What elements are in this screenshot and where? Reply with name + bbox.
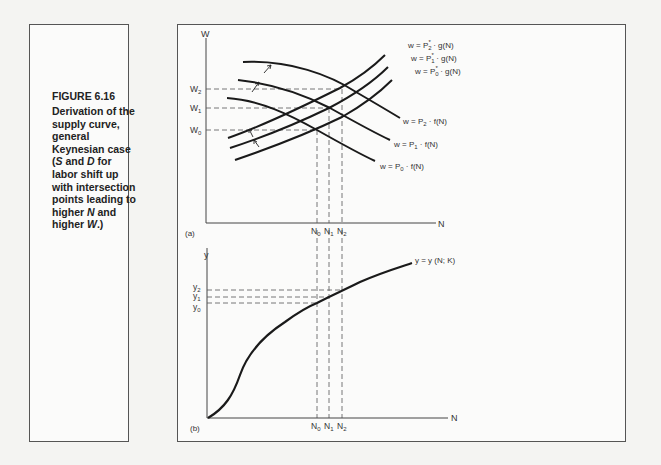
demand-curves [227, 62, 400, 161]
arrow-up-icon [264, 65, 271, 73]
label-production-function: y = y (N; K) [415, 256, 456, 265]
tick-n0-a: N0 [311, 226, 321, 237]
panel-b-label: (b) [190, 424, 200, 433]
tick-n1-a: N1 [324, 226, 334, 237]
supply-curve-p0 [235, 80, 392, 160]
guide-lines-a [206, 89, 342, 418]
n-axis-label-b: N [451, 413, 458, 423]
supply-curve-p1 [230, 67, 388, 148]
tick-y0: y0 [193, 302, 201, 313]
tick-w0: W0 [190, 125, 202, 136]
label-demand-p0: w = P0 · f(N) [379, 162, 424, 172]
tick-w2: W2 [190, 84, 202, 95]
label-supply-p1: w = P1* · g(N) [410, 52, 457, 64]
arrow-up-icon [249, 129, 253, 137]
panel-a-label: (a) [185, 229, 195, 238]
w-axis-label: W [201, 29, 210, 39]
label-demand-p1: w = P1 · f(N) [393, 140, 438, 150]
tick-n2-b: N2 [337, 421, 347, 432]
tick-n0-b: N0 [311, 421, 321, 432]
panel-a: W N (a) W2 W1 W0 N0 N1 N2 [185, 29, 461, 418]
label-demand-p2: w = P2 · f(N) [402, 117, 447, 127]
label-supply-p0: w = P0* · g(N) [414, 65, 461, 77]
arrow-up-icon [252, 82, 259, 92]
tick-n2-a: N2 [337, 226, 347, 237]
production-function-curve [208, 263, 412, 418]
panel-b: y N (b) y2 y1 y0 N0 N1 N2 y = y (N; K) [190, 248, 458, 433]
y-axis-label: y [204, 250, 209, 260]
arrow-up-icon [254, 140, 259, 147]
tick-w1: W1 [190, 103, 202, 114]
label-supply-p2: w = P2* · g(N) [407, 39, 454, 51]
figure-svg: W N (a) W2 W1 W0 N0 N1 N2 [0, 0, 661, 465]
n-axis-label: N [438, 219, 445, 229]
tick-n1-b: N1 [324, 421, 334, 432]
